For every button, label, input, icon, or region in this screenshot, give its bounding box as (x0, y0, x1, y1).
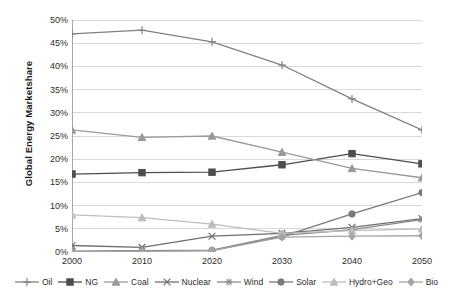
series-ng (72, 150, 422, 177)
chart-legend: OilNGCoalNuclearWindSolarHydro+GeoBio (14, 272, 438, 292)
legend-label: Nuclear (182, 277, 211, 287)
data-point (208, 38, 216, 46)
line-chart: Global Energy Marketshare 0%5%10%15%20%2… (0, 0, 450, 300)
x-axis-tick-label: 2020 (182, 256, 242, 266)
y-axis-tick-label: 10% (32, 201, 68, 211)
legend-marker-diamond-icon (398, 277, 424, 287)
legend-item-oil[interactable]: Oil (14, 277, 52, 287)
y-axis-tick-labels: 0%5%10%15%20%25%30%35%40%45%50% (26, 20, 68, 252)
legend-marker-x-icon (154, 277, 180, 287)
data-point (419, 161, 422, 167)
y-axis-tick-label: 30% (32, 108, 68, 118)
legend-item-solar[interactable]: Solar (268, 277, 316, 287)
series-hydro-geo (72, 211, 422, 237)
y-axis-tick-label: 40% (32, 61, 68, 71)
series-nuclear (72, 215, 422, 251)
data-point (72, 30, 76, 38)
legend-marker-glyph (23, 278, 31, 286)
x-axis-tick-label: 2010 (112, 256, 172, 266)
legend-marker-glyph (278, 279, 284, 285)
legend-marker-glyph (407, 278, 413, 286)
series-oil (72, 26, 422, 134)
data-point (279, 162, 285, 168)
y-axis-tick-label: 45% (32, 38, 68, 48)
y-axis-tick-label: 25% (32, 131, 68, 141)
plot-svg (72, 20, 422, 252)
legend-marker-triangle-icon (103, 277, 129, 287)
data-point (139, 169, 145, 175)
legend-item-hydro-geo[interactable]: Hydro+Geo (321, 277, 393, 287)
legend-marker-plus-icon (14, 277, 40, 287)
series-line (72, 130, 422, 178)
legend-label: Wind (244, 277, 263, 287)
legend-marker-square-icon (57, 277, 83, 287)
legend-marker-glyph (67, 279, 73, 285)
data-point (348, 95, 356, 103)
data-point (419, 232, 422, 240)
plot-area (72, 20, 422, 252)
data-point (349, 211, 355, 217)
legend-label: Coal (131, 277, 148, 287)
data-point (419, 189, 422, 195)
legend-marker-triangle-icon (321, 277, 347, 287)
legend-label: NG (85, 277, 98, 287)
data-point (209, 169, 215, 175)
y-axis-tick-label: 50% (32, 15, 68, 25)
series-line (72, 30, 422, 130)
series-line (72, 215, 422, 234)
x-axis-tick-label: 2050 (392, 256, 450, 266)
legend-item-coal[interactable]: Coal (103, 277, 148, 287)
legend-label: Solar (296, 277, 316, 287)
data-point (418, 126, 422, 134)
x-axis-tick-label: 2030 (252, 256, 312, 266)
x-axis-tick-label: 2000 (42, 256, 102, 266)
y-axis-tick-label: 35% (32, 85, 68, 95)
y-axis-tick-label: 15% (32, 177, 68, 187)
series-line (72, 236, 422, 252)
legend-label: Oil (42, 277, 52, 287)
data-point (278, 61, 286, 69)
legend-marker-circle-icon (268, 277, 294, 287)
y-axis-tick-label: 5% (32, 224, 68, 234)
legend-item-nuclear[interactable]: Nuclear (154, 277, 211, 287)
legend-marker-glyph (225, 278, 232, 285)
data-point (72, 171, 75, 177)
data-point (349, 150, 355, 156)
legend-item-bio[interactable]: Bio (398, 277, 438, 287)
legend-item-ng[interactable]: NG (57, 277, 98, 287)
data-point (138, 26, 146, 34)
y-axis-tick-label: 20% (32, 154, 68, 164)
legend-label: Bio (426, 277, 438, 287)
x-axis-tick-label: 2040 (322, 256, 382, 266)
legend-label: Hydro+Geo (349, 277, 393, 287)
legend-marker-star-icon (216, 277, 242, 287)
legend-item-wind[interactable]: Wind (216, 277, 263, 287)
x-axis-tick-labels: 200020102020203020402050 (72, 256, 422, 272)
